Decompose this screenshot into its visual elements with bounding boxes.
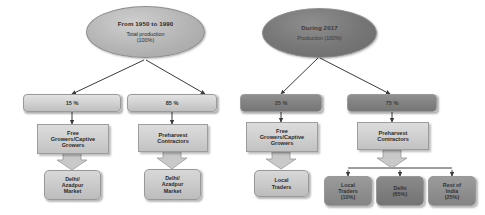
terminal-delhi-azadpur-2: Delhi/ Azadpur Market <box>144 169 201 200</box>
percent-bar-15: 15 % <box>23 94 121 112</box>
terminal-line-2: (65%) <box>393 191 407 197</box>
root-current-line2: Production (100%) <box>297 35 342 41</box>
terminal-local-traders: Local Traders <box>254 170 309 197</box>
root-ellipse-current: During 2017 Production (100%) <box>262 8 377 58</box>
block-arrow-2 <box>157 150 187 169</box>
terminal-delhi-65: Delhi (65%) <box>376 176 424 206</box>
terminal-line-3: (10%) <box>341 194 355 200</box>
role-line-3: Growers <box>271 140 294 146</box>
diagram-canvas: From 1950 to 1990 Total production (100%… <box>0 0 485 215</box>
role-line-2: Contractors <box>157 138 189 144</box>
role-line-2: Contractors <box>377 136 409 142</box>
terminal-rest-of-india-25: Rest of India (25%) <box>428 176 476 206</box>
role-box-free-growers-historic: Free Growers/Captive Growers <box>37 124 109 154</box>
terminal-line-3: Market <box>64 188 81 194</box>
root-current-line1: During 2017 <box>301 25 338 32</box>
percent-bar-25: 25 % <box>240 94 322 112</box>
block-arrow-3 <box>266 152 296 169</box>
block-arrow-4 <box>377 150 407 168</box>
terminal-delhi-azadpur-1: Delhi/ Azadpur Market <box>44 170 101 200</box>
root-historic-line3: (100%) <box>137 37 154 43</box>
terminal-line-3: (25%) <box>445 194 459 200</box>
role-line-3: Growers <box>62 142 85 148</box>
percent-bar-85: 85 % <box>127 94 217 112</box>
terminal-line-2: Traders <box>272 184 291 190</box>
terminal-line-3: Market <box>164 188 181 194</box>
root-historic-line1: From 1950 to 1990 <box>118 21 174 28</box>
root-ellipse-historic: From 1950 to 1990 Total production (100%… <box>86 6 205 58</box>
role-box-preharvest-historic: Preharvest Contractors <box>138 124 208 152</box>
terminal-local-traders-10: Local Traders (10%) <box>324 176 372 206</box>
block-arrow-1 <box>57 152 87 170</box>
role-box-free-growers-current: Free Growers/Captive Growers <box>246 122 318 152</box>
role-box-preharvest-current: Preharvest Contractors <box>357 122 429 150</box>
percent-bar-75: 75 % <box>347 94 437 112</box>
